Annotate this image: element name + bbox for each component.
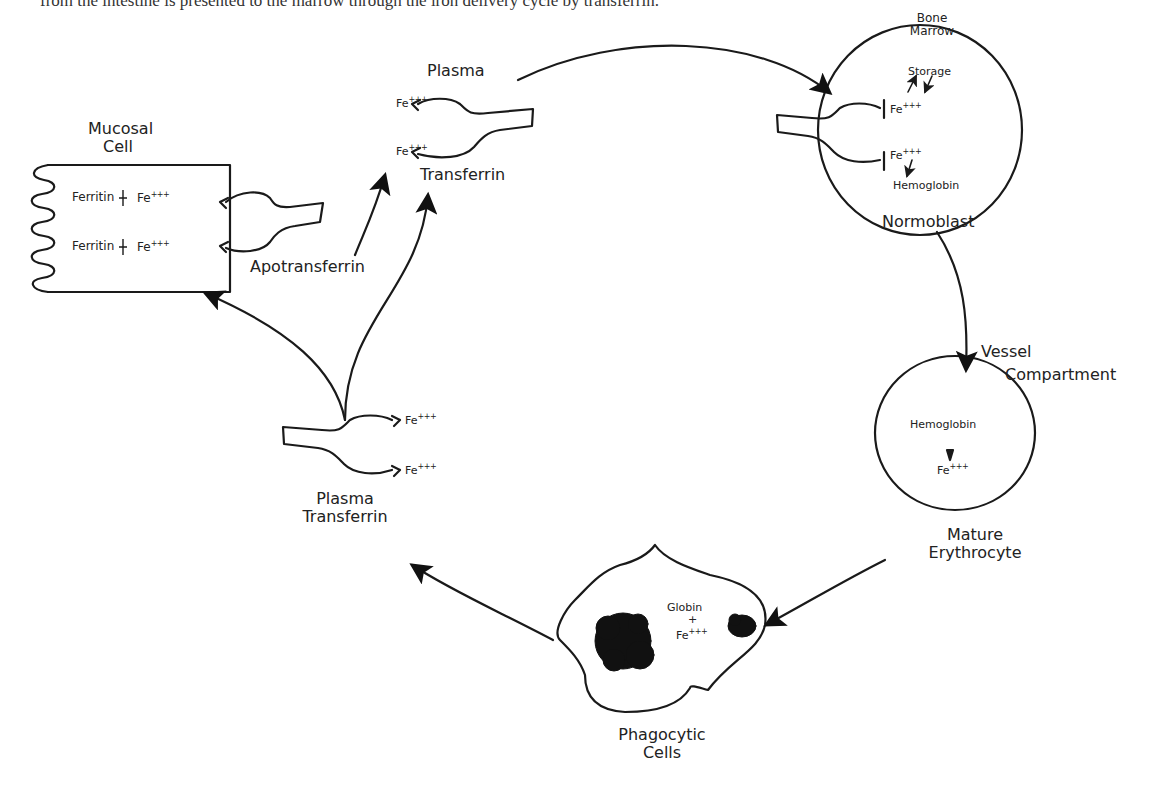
fe-text: Fe — [937, 464, 950, 477]
arrow-apotransferrin-to-transferrin — [355, 175, 385, 255]
storage-label: Storage — [908, 66, 951, 78]
normoblast-label: Normoblast — [882, 213, 974, 231]
mucosal-row-2-fe: Fe+++ — [137, 240, 169, 254]
fe-charge: +++ — [418, 412, 437, 421]
mucosal-row-1: Ferritin — [72, 191, 114, 204]
ferritin-bond-glyphs — [119, 190, 127, 255]
bone-marrow-label: Bone Marrow — [902, 12, 962, 38]
fe-text: Fe — [137, 191, 151, 205]
bone-marrow-hemoglobin: Hemoglobin — [893, 180, 959, 192]
transferrin-bone-marrow-molecule — [777, 100, 884, 170]
fe-charge: +++ — [409, 143, 428, 152]
fe-text: Fe — [405, 414, 418, 427]
arrow-transferrin-to-top-transferrin — [345, 195, 428, 420]
fe-text: Fe — [137, 240, 151, 254]
phagocytic-label-line2: Cells — [602, 744, 722, 762]
globin-clump-small — [728, 614, 756, 637]
transferrin-bottom-site-1: Fe+++ — [405, 413, 436, 427]
erythrocyte-fe: Fe+++ — [937, 463, 968, 477]
bone-marrow-circle — [818, 25, 1022, 235]
globin-clump-large — [595, 613, 654, 671]
arrow-phagocytic-to-transferrin — [412, 565, 553, 640]
plasma-label: Plasma — [427, 62, 485, 80]
fe-text: Fe — [890, 149, 903, 162]
fe-charge: +++ — [903, 147, 922, 156]
storage-to-fe-arrow — [925, 76, 932, 92]
mucosal-row-2: Ferritin — [72, 240, 114, 253]
transferrin-top-site-2: Fe+++ — [396, 144, 427, 158]
fe-charge: +++ — [950, 462, 969, 471]
fe-text: Fe — [405, 464, 418, 477]
fe-to-hemoglobin-arrow — [907, 160, 912, 176]
transferrin-bottom-molecule — [283, 416, 400, 477]
iron-cycle-diagram: from the intestine is presented to the m… — [0, 0, 1174, 791]
phagocytic-cells-label: Phagocytic Cells — [602, 726, 722, 761]
fe-to-storage-arrow — [908, 76, 916, 92]
apotransferrin-label: Apotransferrin — [250, 258, 365, 276]
fe-text: Fe — [396, 145, 409, 158]
fe-text: Fe — [676, 629, 689, 642]
hemoglobin-to-fe-arrow — [947, 450, 953, 460]
transferrin-label: Transferrin — [420, 166, 505, 184]
vessel-label: Vessel — [981, 343, 1032, 361]
mucosal-label-line1: Mucosal — [88, 120, 148, 138]
plasma-transferrin-line2: Transferrin — [285, 508, 405, 526]
bone-marrow-fe-top: Fe+++ — [890, 102, 921, 116]
fe-charge: +++ — [418, 462, 437, 471]
arrow-normoblast-to-erythrocyte — [937, 232, 966, 370]
arrow-erythrocyte-to-phagocytic — [766, 560, 885, 625]
plasma-transferrin-line1: Plasma — [285, 490, 405, 508]
globin-label: Globin — [667, 602, 702, 614]
apotransferrin-molecule — [220, 192, 323, 252]
mucosal-label-line2: Cell — [88, 138, 148, 156]
mucosal-row-1-fe: Fe+++ — [137, 191, 169, 205]
arrow-transferrin-to-mucosal — [205, 293, 345, 420]
transferrin-bottom-site-2: Fe+++ — [405, 463, 436, 477]
bone-marrow-fe-bottom: Fe+++ — [890, 148, 921, 162]
transferrin-top-molecule — [412, 99, 533, 158]
erythrocyte-hemoglobin: Hemoglobin — [910, 419, 976, 431]
mature-erythrocyte-label: Mature Erythrocyte — [915, 526, 1035, 561]
fe-text: Fe — [396, 97, 409, 110]
fe-charge: +++ — [903, 101, 922, 110]
transferrin-top-site-1: Fe+++ — [396, 96, 427, 110]
bone-label-line2: Marrow — [902, 25, 962, 38]
fe-text: Fe — [890, 103, 903, 116]
fe-charge: +++ — [151, 190, 170, 199]
mucosal-cell-shape — [32, 165, 230, 292]
mature-label-line2: Erythrocyte — [915, 544, 1035, 562]
ferritin-text: Ferritin — [72, 239, 114, 253]
ferritin-text: Ferritin — [72, 190, 114, 204]
mucosal-cell-label: Mucosal Cell — [88, 120, 148, 155]
fe-charge: +++ — [689, 627, 708, 636]
phagocytic-fe: Fe+++ — [676, 628, 707, 642]
plasma-transferrin-label: Plasma Transferrin — [285, 490, 405, 525]
arrow-plasma-to-bone-marrow — [518, 46, 830, 93]
fe-charge: +++ — [151, 239, 170, 248]
globin-plus: + — [688, 614, 697, 626]
fe-charge: +++ — [409, 95, 428, 104]
diagram-graphics — [0, 0, 1174, 791]
mature-label-line1: Mature — [915, 526, 1035, 544]
phagocytic-label-line1: Phagocytic — [602, 726, 722, 744]
compartment-label: Compartment — [1005, 366, 1116, 384]
